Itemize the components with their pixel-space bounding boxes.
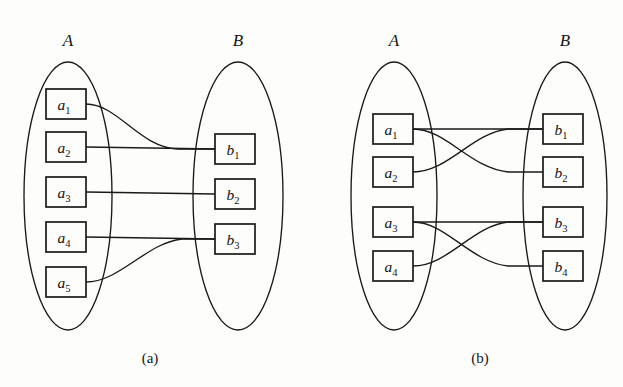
set-B-label: B xyxy=(233,31,244,50)
figure-canvas: A B a1 xyxy=(0,0,623,387)
set-B-ellipse-b xyxy=(523,62,607,330)
node-b-a3: a3 xyxy=(373,207,413,237)
panel-b-nodes-A: a1 a2 a3 a4 xyxy=(373,114,413,281)
node-a1: a1 xyxy=(46,89,86,119)
node-b-b1: b1 xyxy=(543,114,583,144)
node-b-a1: a1 xyxy=(373,114,413,144)
node-a3: a3 xyxy=(46,177,86,207)
set-A-ellipse-b xyxy=(351,62,437,330)
panel-a-nodes-B: b1 b2 b3 xyxy=(215,134,255,254)
node-b-b4: b4 xyxy=(543,251,583,281)
panel-b-nodes-B: b1 b2 b3 b4 xyxy=(543,114,583,281)
panel-a-edges xyxy=(86,104,215,282)
node-a2: a2 xyxy=(46,132,86,162)
relation-diagram-figure: A B a1 xyxy=(0,0,623,387)
panel-b-caption: (b) xyxy=(471,350,489,367)
panel-a-nodes-A: a1 a2 a3 a4 a5 xyxy=(46,89,86,297)
node-b3: b3 xyxy=(215,224,255,254)
node-a4: a4 xyxy=(46,222,86,252)
set-A-label: A xyxy=(62,31,74,50)
panel-b: A B a1 a2 xyxy=(351,31,607,367)
set-B-label-b: B xyxy=(560,31,571,50)
node-b1: b1 xyxy=(215,134,255,164)
node-b2: b2 xyxy=(215,179,255,209)
edge-a3-b2 xyxy=(86,192,215,194)
node-b-a2: a2 xyxy=(373,157,413,187)
node-a5: a5 xyxy=(46,267,86,297)
node-b-a4: a4 xyxy=(373,251,413,281)
node-b-b3: b3 xyxy=(543,207,583,237)
panel-a-caption: (a) xyxy=(142,350,159,367)
panel-a: A B a1 xyxy=(24,31,283,367)
node-b-b2: b2 xyxy=(543,157,583,187)
set-A-label-b: A xyxy=(388,31,400,50)
